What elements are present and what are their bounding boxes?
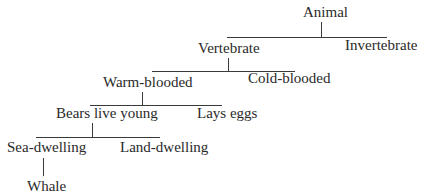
node-lays-eggs: Lays eggs: [197, 105, 258, 121]
node-whale: Whale: [27, 178, 66, 194]
branch-bears-live-young: [36, 123, 160, 137]
node-warm-blooded: Warm-blooded: [103, 74, 193, 90]
node-bears-live-young: Bears live young: [56, 105, 158, 121]
tree-svg: Animal Vertebrate Invertebrate Warm-bloo…: [0, 0, 424, 195]
node-land-dwelling: Land-dwelling: [120, 139, 209, 155]
branch-animal: [227, 22, 387, 37]
node-invertebrate: Invertebrate: [345, 37, 418, 53]
node-vertebrate: Vertebrate: [198, 40, 260, 56]
taxonomy-diagram: Animal Vertebrate Invertebrate Warm-bloo…: [0, 0, 424, 195]
branch-warm-blooded: [90, 92, 222, 105]
node-animal: Animal: [303, 4, 348, 20]
node-sea-dwelling: Sea-dwelling: [7, 139, 87, 155]
node-cold-blooded: Cold-blooded: [248, 70, 331, 86]
